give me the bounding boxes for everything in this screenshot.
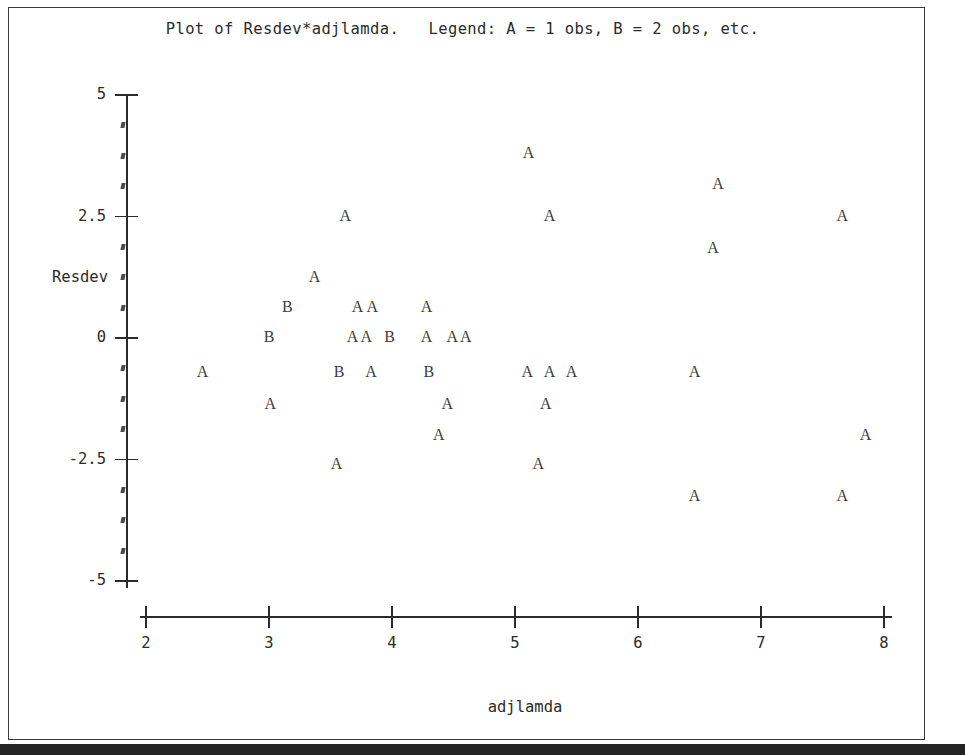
x-tick-mark [883,606,885,628]
x-axis-label: adjlamda [425,698,625,716]
data-point-b: B [420,362,438,382]
data-point-b: B [330,362,348,382]
y-tick-label: -5 [26,571,106,589]
y-tick-mark [115,459,138,461]
data-point-a: A [417,297,435,317]
x-tick-label: 8 [864,634,904,652]
scan-edge-right [932,0,965,755]
x-tick-label: 4 [372,634,412,652]
y-axis-label: Resdev [28,268,108,286]
data-point-a: A [363,297,381,317]
x-tick-label: 3 [249,634,289,652]
data-point-a: A [520,143,538,163]
scanned-page: Plot of Resdev*adjlamda. Legend: A = 1 o… [0,0,965,755]
y-tick-mark [115,94,138,96]
y-axis-line [126,95,128,588]
y-tick-label: 5 [26,85,106,103]
data-point-a: A [686,486,704,506]
x-tick-label: 2 [126,634,166,652]
x-tick-label: 7 [741,634,781,652]
data-point-b: B [381,327,399,347]
x-tick-label: 5 [495,634,535,652]
y-tick-label: 2.5 [26,207,106,225]
data-point-a: A [540,206,558,226]
plot-title: Plot of Resdev*adjlamda. Legend: A = 1 o… [0,20,925,38]
data-point-a: A [457,327,475,347]
data-point-a: A [194,362,212,382]
x-tick-mark [637,606,639,628]
x-tick-label: 6 [618,634,658,652]
data-point-a: A [686,362,704,382]
data-point-a: A [438,394,456,414]
data-point-a: A [430,425,448,445]
y-tick-mark [115,337,138,339]
data-point-a: A [537,394,555,414]
data-point-a: A [328,454,346,474]
data-point-a: A [362,362,380,382]
data-point-a: A [833,206,851,226]
y-tick-mark [115,580,138,582]
data-point-a: A [417,327,435,347]
y-tick-label: 0 [26,328,106,346]
data-point-a: A [336,206,354,226]
data-point-b: B [260,327,278,347]
data-point-a: A [261,394,279,414]
data-point-a: A [857,425,875,445]
x-tick-mark [514,606,516,628]
x-tick-mark [760,606,762,628]
data-point-a: A [518,362,536,382]
data-point-a: A [357,327,375,347]
data-point-a: A [704,238,722,258]
data-point-a: A [563,362,581,382]
data-point-a: A [529,454,547,474]
page-border [8,7,925,740]
data-point-a: A [833,486,851,506]
y-tick-mark [115,216,138,218]
x-tick-mark [268,606,270,628]
x-tick-mark [391,606,393,628]
data-point-a: A [709,174,727,194]
y-tick-label: -2.5 [26,450,106,468]
scan-edge-bottom [0,744,965,755]
x-axis-line [140,616,892,618]
data-point-a: A [306,267,324,287]
data-point-b: B [278,297,296,317]
data-point-a: A [540,362,558,382]
x-tick-mark [145,606,147,628]
